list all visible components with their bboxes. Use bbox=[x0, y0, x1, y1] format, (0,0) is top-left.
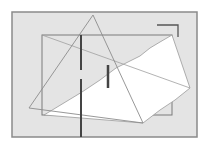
geometric-diagram bbox=[0, 0, 205, 144]
